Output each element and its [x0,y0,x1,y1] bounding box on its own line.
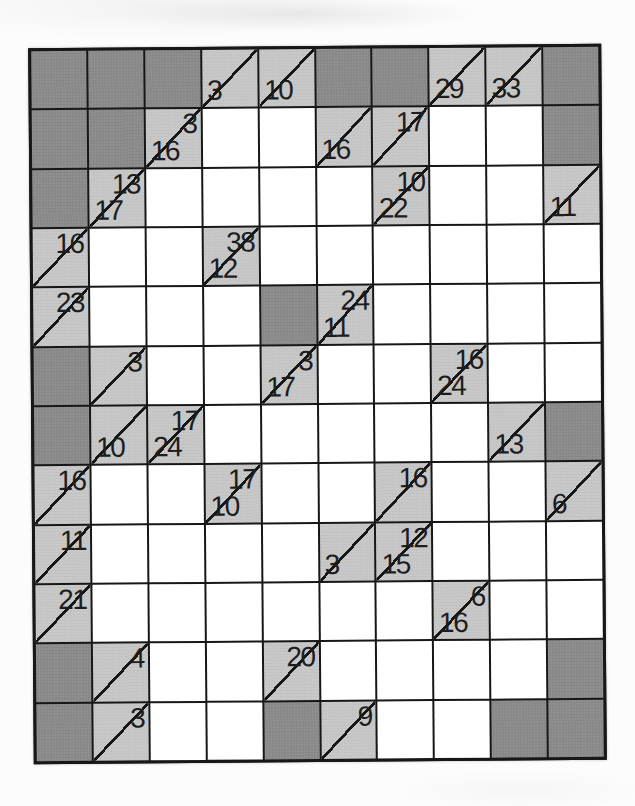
clue-cell: 33 [486,47,541,105]
entry-cell[interactable] [262,405,317,463]
entry-cell[interactable] [259,108,314,166]
entry-cell[interactable] [146,169,201,227]
entry-cell[interactable] [262,464,317,522]
clue-cell: 6 [547,462,602,520]
entry-cell[interactable] [207,702,262,760]
entry-cell[interactable] [431,226,486,284]
entry-cell[interactable] [490,463,545,521]
block-cell [32,110,87,168]
entry-cell[interactable] [375,404,430,462]
block-cell [546,403,601,461]
entry-cell[interactable] [433,522,488,580]
entry-cell[interactable] [547,521,602,579]
entry-cell[interactable] [432,404,487,462]
entry-cell[interactable] [317,227,372,285]
entry-cell[interactable] [491,581,546,639]
entry-cell[interactable] [320,583,375,641]
block-cell [543,47,598,105]
down-clue-number: 22 [379,194,407,222]
down-clue-number: 10 [210,492,238,520]
across-clue-number: 16 [399,464,427,492]
entry-cell[interactable] [488,225,543,283]
entry-cell[interactable] [378,701,433,759]
entry-cell[interactable] [147,347,202,405]
entry-cell[interactable] [260,227,315,285]
entry-cell[interactable] [207,643,262,701]
entry-cell[interactable] [488,285,543,343]
entry-cell[interactable] [90,228,145,286]
entry-cell[interactable] [430,107,485,165]
block-cell [32,169,87,227]
entry-cell[interactable] [146,228,201,286]
entry-cell[interactable] [487,107,542,165]
block-cell [544,106,599,164]
across-clue-number: 20 [286,643,314,671]
entry-cell[interactable] [545,284,600,342]
entry-cell[interactable] [202,109,257,167]
entry-cell[interactable] [203,168,258,226]
entry-cell[interactable] [491,641,546,699]
entry-cell[interactable] [319,405,374,463]
entry-cell[interactable] [147,287,202,345]
entry-cell[interactable] [263,583,318,641]
entry-cell[interactable] [430,166,485,224]
entry-cell[interactable] [319,464,374,522]
entry-cell[interactable] [148,465,203,523]
clue-cell: 1710 [205,465,260,523]
block-cell [145,50,200,108]
down-clue-number: 16 [151,137,179,165]
clue-cell: 11 [544,165,599,223]
down-clue-number: 16 [439,609,467,637]
entry-cell[interactable] [374,285,429,343]
clue-cell: 3 [319,523,374,581]
entry-cell[interactable] [320,642,375,700]
entry-cell[interactable] [377,641,432,699]
entry-cell[interactable] [150,703,205,761]
across-clue-number: 23 [56,289,84,317]
entry-cell[interactable] [150,643,205,701]
clue-cell: 1724 [148,406,203,464]
entry-cell[interactable] [377,582,432,640]
entry-cell[interactable] [435,700,490,758]
clue-cell: 3 [93,703,148,761]
down-clue-number: 10 [96,434,124,462]
down-clue-number: 16 [321,135,349,163]
clue-cell: 1317 [89,169,144,227]
entry-cell[interactable] [490,522,545,580]
entry-cell[interactable] [91,466,146,524]
entry-cell[interactable] [546,343,601,401]
entry-cell[interactable] [149,525,204,583]
entry-cell[interactable] [90,288,145,346]
clue-cell: 616 [434,582,489,640]
scanned-page: 3102933316161713171022111638122324113317… [0,0,635,806]
entry-cell[interactable] [434,641,489,699]
block-cell [316,49,371,107]
entry-cell[interactable] [374,226,429,284]
kakuro-grid: 3102933316161713171022111638122324113317… [28,44,607,764]
entry-cell[interactable] [547,581,602,639]
entry-cell[interactable] [431,285,486,343]
entry-cell[interactable] [317,167,372,225]
clue-cell: 11 [35,525,90,583]
entry-cell[interactable] [206,583,261,641]
block-cell [373,48,428,106]
entry-cell[interactable] [206,524,261,582]
entry-cell[interactable] [204,346,259,404]
across-clue-number: 11 [60,526,86,554]
entry-cell[interactable] [489,344,544,402]
entry-cell[interactable] [204,287,259,345]
entry-cell[interactable] [92,584,147,642]
entry-cell[interactable] [545,225,600,283]
entry-cell[interactable] [149,584,204,642]
entry-cell[interactable] [205,405,260,463]
entry-cell[interactable] [433,463,488,521]
across-clue-number: 21 [58,586,86,614]
entry-cell[interactable] [487,166,542,224]
clue-cell: 9 [321,701,376,759]
entry-cell[interactable] [375,345,430,403]
entry-cell[interactable] [263,524,318,582]
entry-cell[interactable] [92,525,147,583]
down-clue-number: 13 [494,431,522,459]
entry-cell[interactable] [260,168,315,226]
entry-cell[interactable] [318,345,373,403]
